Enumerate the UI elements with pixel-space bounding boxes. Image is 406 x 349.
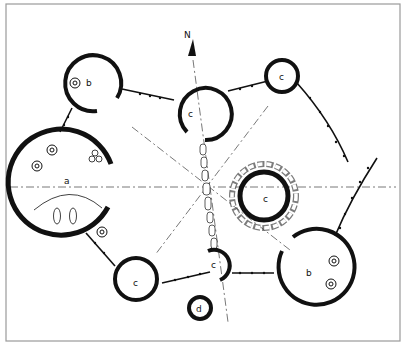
label-b-bottom: b — [306, 268, 312, 278]
label-c-bottom-left: c — [133, 278, 138, 288]
hut-b-bottom: b — [279, 229, 355, 305]
hut-d: d — [189, 297, 211, 319]
label-d: d — [196, 304, 202, 314]
label-c-small-center: c — [211, 260, 216, 270]
stone-path — [200, 144, 217, 249]
north-label: N — [184, 30, 191, 40]
hut-c-center-right: c — [232, 164, 296, 228]
label-c-top-center: c — [188, 109, 193, 119]
hut-a: a — [8, 129, 111, 237]
hut-b-top: b — [65, 55, 121, 111]
north-south-axis — [193, 60, 228, 322]
label-c-center-right: c — [263, 194, 268, 204]
site-plan-diagram: N b a — [0, 0, 406, 349]
north-arrow-icon: N — [184, 30, 196, 56]
hut-c-top-center: c — [180, 88, 232, 140]
label-a: a — [64, 176, 70, 186]
label-b-top: b — [86, 78, 92, 88]
label-c-top-right: c — [279, 72, 284, 82]
hut-c-top-right: c — [266, 60, 298, 92]
hut-c-bottom-left: c — [115, 258, 157, 300]
